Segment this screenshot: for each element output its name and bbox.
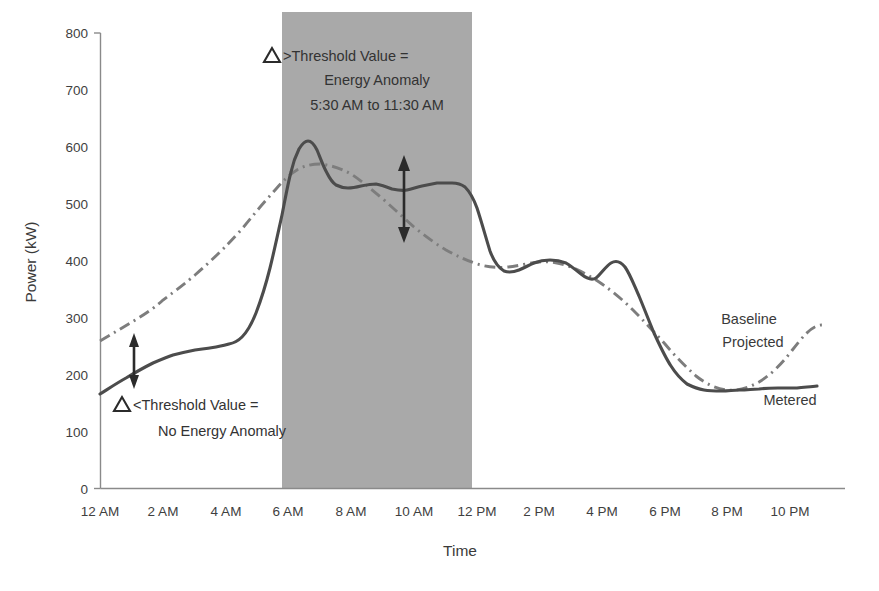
y-tick-label-400: 400 [65, 254, 88, 269]
chart-figure: 800 700 600 500 400 300 200 100 0 12 AM … [0, 0, 879, 591]
x-tick-label-10am: 10 AM [395, 504, 433, 519]
y-axis-tick-labels: 800 700 600 500 400 300 200 100 0 [65, 26, 88, 497]
x-tick-label-2am: 2 AM [148, 504, 179, 519]
x-tick-label-12pm: 12 PM [457, 504, 496, 519]
y-tick-label-200: 200 [65, 368, 88, 383]
series-label-metered: Metered [763, 392, 816, 408]
x-tick-label-2pm: 2 PM [523, 504, 555, 519]
delta-triangle-icon-upper [264, 48, 280, 62]
x-tick-label-4am: 4 AM [211, 504, 242, 519]
anomaly-annotation-line3: 5:30 AM to 11:30 AM [310, 97, 444, 113]
x-tick-label-8am: 8 AM [336, 504, 367, 519]
series-label-baseline-line2: Projected [722, 334, 783, 350]
energy-anomaly-line-chart: 800 700 600 500 400 300 200 100 0 12 AM … [0, 0, 879, 591]
x-tick-label-8pm: 8 PM [711, 504, 743, 519]
anomaly-annotation-line1: >Threshold Value = [283, 48, 408, 64]
anomaly-annotation-line2: Energy Anomaly [324, 72, 430, 88]
x-tick-label-6am: 6 AM [273, 504, 304, 519]
x-tick-label-12am: 12 AM [81, 504, 119, 519]
y-axis-title: Power (kW) [22, 222, 39, 303]
x-tick-label-10pm: 10 PM [770, 504, 809, 519]
y-tick-label-100: 100 [65, 425, 88, 440]
no-anomaly-annotation-line1: <Threshold Value = [133, 397, 258, 413]
series-labels: Baseline Projected Metered [721, 311, 816, 408]
x-tick-label-6pm: 6 PM [649, 504, 681, 519]
y-tick-label-600: 600 [65, 140, 88, 155]
delta-arrow-small [129, 333, 139, 389]
y-tick-label-0: 0 [80, 482, 88, 497]
y-tick-label-800: 800 [65, 26, 88, 41]
x-tick-label-4pm: 4 PM [586, 504, 618, 519]
delta-triangle-icon-lower [114, 397, 130, 411]
series-label-baseline-line1: Baseline [721, 311, 777, 327]
y-tick-label-300: 300 [65, 311, 88, 326]
x-axis-title: Time [443, 542, 477, 559]
no-anomaly-annotation: <Threshold Value = No Energy Anomaly [114, 397, 287, 439]
y-tick-label-700: 700 [65, 83, 88, 98]
no-anomaly-annotation-line2: No Energy Anomaly [158, 423, 287, 439]
y-tick-label-500: 500 [65, 197, 88, 212]
x-axis-tick-labels: 12 AM 2 AM 4 AM 6 AM 8 AM 10 AM 12 PM 2 … [81, 504, 810, 519]
